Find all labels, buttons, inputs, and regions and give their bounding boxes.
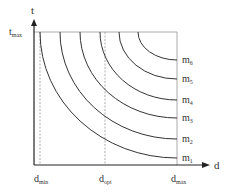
tmax-label: tmax (9, 26, 22, 38)
isoline-m4 (100, 32, 177, 100)
x-marker-label-min: dmin (34, 173, 48, 185)
isoline-m5 (119, 32, 177, 79)
x-axis-label: d (214, 159, 220, 171)
isoline-m1 (40, 32, 177, 158)
curve-label-m3: m3 (182, 112, 193, 124)
curve-group (40, 32, 177, 158)
x-marker-label-max: dmax (171, 173, 186, 185)
curve-label-m5: m5 (182, 73, 193, 85)
isoline-diagram: t d tmax dmindoptdmax m1m2m3m4m5m6 (0, 0, 226, 193)
y-axis-label: t (31, 4, 34, 16)
curve-label-m1: m1 (182, 152, 193, 164)
y-axis-arrow-icon (31, 19, 37, 26)
curve-label-m4: m4 (182, 94, 193, 106)
isoline-m2 (60, 32, 177, 139)
curve-label-m2: m2 (182, 133, 193, 145)
isoline-m6 (138, 32, 177, 60)
isoline-m3 (80, 32, 177, 118)
x-axis-arrow-icon (202, 162, 210, 168)
curve-label-m6: m6 (182, 54, 193, 66)
x-marker-label-opt: dopt (99, 173, 112, 185)
